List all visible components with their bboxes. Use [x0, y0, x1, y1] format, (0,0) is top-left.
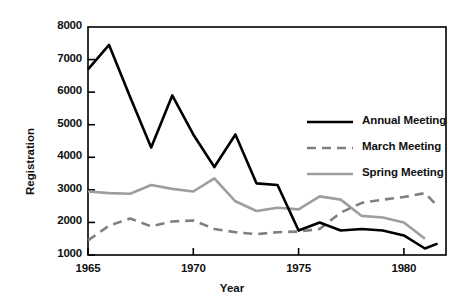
y-axis-tick-label: 4000 — [26, 149, 82, 161]
x-axis-tick-label: 1965 — [58, 262, 118, 274]
x-axis-tick-label: 1980 — [374, 262, 434, 274]
chart-figure: Registration Year 1000200030004000500060… — [0, 0, 464, 305]
y-axis-tick-label: 1000 — [26, 247, 82, 259]
y-axis-tick-label: 7000 — [26, 52, 82, 64]
y-axis-tick-label: 8000 — [26, 19, 82, 31]
y-axis-tick-label: 2000 — [26, 214, 82, 226]
x-axis-title: Year — [0, 282, 464, 294]
legend-label-spring-meeting: Spring Meeting — [362, 166, 444, 178]
legend-label-annual-meeting: Annual Meeting — [362, 114, 446, 126]
y-axis-tick-label: 5000 — [26, 117, 82, 129]
y-axis-tick-label: 3000 — [26, 182, 82, 194]
y-axis-tick-label: 6000 — [26, 84, 82, 96]
x-axis-tick-label: 1970 — [163, 262, 223, 274]
series-line-march-meeting — [88, 193, 438, 240]
legend-label-march-meeting: March Meeting — [362, 140, 441, 152]
x-axis-tick-label: 1975 — [269, 262, 329, 274]
